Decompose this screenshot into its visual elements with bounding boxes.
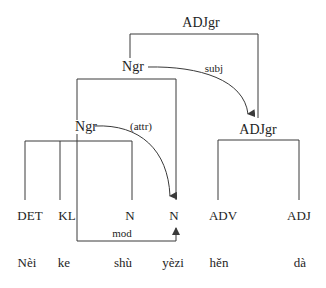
word-da: dà (294, 256, 306, 269)
word-nei: Nèi (18, 256, 37, 269)
root-bracket (130, 34, 258, 118)
attr-relation-label: (attr) (130, 121, 152, 132)
adjgr-inner-bracket (218, 140, 299, 200)
adjgr-inner-node: ADJgr (239, 123, 276, 137)
ngr-inner-stem (77, 134, 176, 241)
category-adj: ADJ (287, 209, 311, 222)
subj-arc (148, 67, 248, 114)
word-shu: shù (114, 256, 132, 269)
category-n-shu: N (125, 209, 134, 222)
category-adv: ADV (209, 209, 237, 222)
tree-lines (0, 0, 326, 288)
mod-relation-label: mod (112, 228, 132, 239)
ngr-top-node: Ngr (122, 60, 144, 74)
ngr-inner-node: Ngr (75, 120, 97, 134)
syntax-tree-diagram: ADJgr Ngr Ngr ADJgr subj (attr) mod DET … (0, 0, 326, 288)
subj-relation-label: subj (205, 63, 223, 74)
word-yezi: yèzi (162, 256, 184, 269)
category-n-yezi: N (169, 209, 178, 222)
category-det: DET (17, 209, 42, 222)
word-hen: hěn (210, 256, 229, 269)
category-kl: KL (58, 209, 75, 222)
ngr-inner-bracket (25, 141, 132, 200)
word-ke: ke (58, 256, 70, 269)
ngr-top-bracket (77, 79, 176, 200)
root-adjgr-node: ADJgr (182, 16, 219, 30)
